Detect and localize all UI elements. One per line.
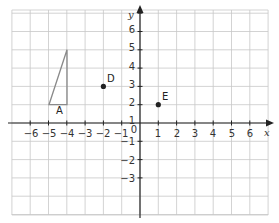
y-tick-label: 5: [129, 42, 135, 53]
x-tick-label: 6: [247, 128, 253, 139]
x-tick-label: −4: [60, 128, 75, 139]
x-tick-label: −3: [78, 128, 93, 139]
x-axis-arrow-icon: [266, 120, 274, 127]
y-tick-label: 6: [129, 24, 135, 35]
triangle-a: [49, 50, 67, 105]
y-tick-label: −2: [120, 155, 135, 166]
y-axis-label: y: [127, 9, 134, 20]
shape-a-label: A: [56, 105, 63, 116]
y-tick-label: 3: [129, 79, 135, 90]
x-axis-label: x: [264, 127, 270, 138]
point-e-marker: [156, 102, 161, 107]
point-d-marker: [101, 84, 106, 89]
shape-a: A: [49, 50, 67, 116]
x-tick-label: −5: [42, 128, 57, 139]
x-tick-label: 3: [192, 128, 198, 139]
x-tick-label: 1: [155, 128, 161, 139]
x-tick-label: 4: [210, 128, 216, 139]
y-tick-label: 4: [129, 61, 135, 72]
tick-labels: −6 −5 −4 −3 −2 −1 1 2 3 4 5 6 0 6 5 4 3 …: [24, 9, 270, 184]
axes: [8, 5, 274, 218]
coordinate-grid: −6 −5 −4 −3 −2 −1 1 2 3 4 5 6 0 6 5 4 3 …: [0, 0, 279, 223]
y-tick-label: 2: [129, 97, 135, 108]
point-d-label: D: [107, 73, 115, 84]
y-axis-arrow-icon: [137, 5, 144, 13]
x-tick-label: −6: [24, 128, 39, 139]
y-tick-label: −3: [120, 173, 135, 184]
x-tick-label: 2: [174, 128, 180, 139]
x-tick-label: −2: [96, 128, 111, 139]
x-tick-label: 5: [229, 128, 235, 139]
y-tick-label: −1: [120, 136, 135, 147]
y-tick-label: 1: [129, 115, 135, 126]
point-e-label: E: [162, 91, 168, 102]
